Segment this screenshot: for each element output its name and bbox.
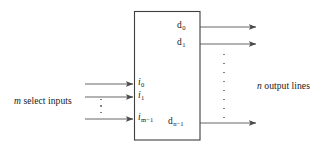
input-port-sub-i1: 1 xyxy=(141,94,144,101)
output-port-sub-dn-1: n−1 xyxy=(173,120,184,127)
input-port-label-im-1: im−1 xyxy=(138,113,153,123)
output-lines-symbol: n xyxy=(257,80,262,91)
select-inputs-caption: m select inputs xyxy=(14,96,72,106)
select-inputs-symbol: m xyxy=(14,95,21,106)
output-port-label-d1: d1 xyxy=(177,38,185,48)
output-port-label-dn-1: dn−1 xyxy=(168,117,183,127)
decoder-block-diagram: i0 i1 im−1 d0 d1 dn−1 m select inputs n … xyxy=(0,0,333,151)
output-port-sub-d1: 1 xyxy=(182,41,185,48)
input-port-label-i1: i1 xyxy=(138,91,144,101)
input-wires xyxy=(85,84,133,119)
input-ellipsis-dots xyxy=(99,99,103,113)
input-port-label-i0: i0 xyxy=(138,78,144,88)
output-lines-caption: n output lines xyxy=(257,81,310,91)
output-port-sub-d0: 0 xyxy=(182,24,185,31)
input-port-sub-im-1: m−1 xyxy=(141,116,153,123)
input-port-sub-i0: 0 xyxy=(141,81,144,88)
output-lines-text: output lines xyxy=(264,80,310,91)
output-ellipsis-dots xyxy=(222,54,226,118)
output-port-label-d0: d0 xyxy=(177,21,185,31)
output-wires xyxy=(200,27,256,123)
select-inputs-text: select inputs xyxy=(23,95,71,106)
diagram-vector-layer xyxy=(0,0,333,151)
